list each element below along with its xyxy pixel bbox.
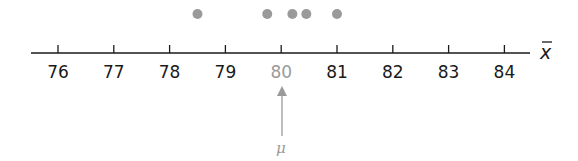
x-tick-label: 81 bbox=[326, 62, 348, 82]
x-bar-label: x bbox=[539, 41, 552, 63]
dot-plot: 767778798081828384 x μ bbox=[0, 0, 578, 161]
x-axis-label: x bbox=[539, 41, 552, 63]
x-tick-label: 78 bbox=[159, 62, 181, 82]
data-points bbox=[193, 9, 343, 19]
data-point bbox=[193, 9, 203, 19]
x-tick-label: 80 bbox=[270, 62, 292, 82]
data-point bbox=[262, 9, 272, 19]
x-tick-label: 77 bbox=[103, 62, 125, 82]
mu-annotation: μ bbox=[276, 86, 287, 157]
x-tick-label: 84 bbox=[494, 62, 516, 82]
data-point bbox=[301, 9, 311, 19]
data-point bbox=[287, 9, 297, 19]
mu-label: μ bbox=[276, 139, 286, 157]
data-point bbox=[332, 9, 342, 19]
x-tick-label: 76 bbox=[47, 62, 69, 82]
x-tick-label: 79 bbox=[215, 62, 237, 82]
x-tick-label: 82 bbox=[382, 62, 404, 82]
arrow-up-icon bbox=[277, 86, 287, 96]
x-tick-label: 83 bbox=[438, 62, 460, 82]
x-axis-ticks: 767778798081828384 bbox=[47, 45, 515, 82]
